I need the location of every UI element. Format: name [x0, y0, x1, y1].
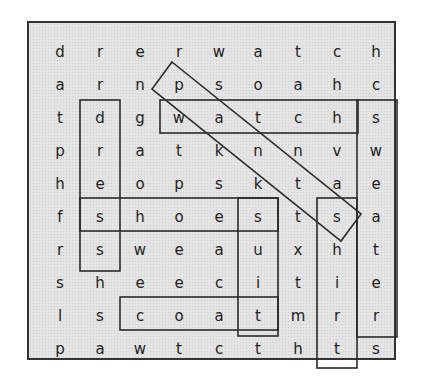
- grid-cell[interactable]: s: [80, 201, 120, 234]
- grid-cell[interactable]: o: [159, 201, 199, 234]
- grid-cell[interactable]: s: [238, 201, 278, 234]
- grid-cell[interactable]: o: [120, 168, 160, 201]
- grid-cell[interactable]: a: [238, 36, 278, 69]
- grid-cell[interactable]: v: [317, 135, 357, 168]
- grid-cell[interactable]: t: [317, 333, 357, 366]
- grid-cell[interactable]: i: [317, 267, 357, 300]
- grid-cell[interactable]: k: [238, 168, 278, 201]
- grid-cell[interactable]: s: [317, 201, 357, 234]
- grid-cell[interactable]: c: [278, 102, 318, 135]
- grid-cell[interactable]: g: [120, 102, 160, 135]
- grid-cell[interactable]: h: [40, 168, 80, 201]
- grid-cell[interactable]: w: [159, 102, 199, 135]
- grid-cell[interactable]: p: [159, 168, 199, 201]
- grid-cell[interactable]: i: [238, 267, 278, 300]
- grid-cell[interactable]: t: [238, 300, 278, 333]
- grid-cell[interactable]: s: [199, 168, 239, 201]
- grid-cell[interactable]: a: [199, 102, 239, 135]
- grid-cell[interactable]: a: [278, 69, 318, 102]
- grid-cell[interactable]: a: [356, 201, 396, 234]
- grid-cell[interactable]: e: [159, 267, 199, 300]
- grid-cell[interactable]: p: [40, 333, 80, 366]
- grid-cell[interactable]: t: [238, 102, 278, 135]
- grid-cell[interactable]: a: [80, 333, 120, 366]
- grid-cell[interactable]: h: [317, 234, 357, 267]
- grid-cell[interactable]: s: [199, 69, 239, 102]
- grid-cell[interactable]: s: [80, 234, 120, 267]
- grid-cell[interactable]: p: [40, 135, 80, 168]
- grid-cell[interactable]: h: [278, 333, 318, 366]
- grid-cell[interactable]: k: [199, 135, 239, 168]
- grid-cell[interactable]: t: [238, 333, 278, 366]
- grid-cell[interactable]: h: [120, 201, 160, 234]
- grid-cell[interactable]: r: [356, 300, 396, 333]
- grid-cell[interactable]: a: [199, 234, 239, 267]
- grid-cell[interactable]: s: [40, 267, 80, 300]
- grid-cell[interactable]: t: [356, 234, 396, 267]
- grid-cell[interactable]: o: [238, 69, 278, 102]
- grid-cell[interactable]: m: [278, 300, 318, 333]
- grid-cell[interactable]: c: [120, 300, 160, 333]
- grid-cell[interactable]: h: [317, 102, 357, 135]
- grid-cell[interactable]: w: [356, 135, 396, 168]
- grid-cell[interactable]: t: [278, 201, 318, 234]
- grid-cell[interactable]: t: [159, 135, 199, 168]
- grid-cell[interactable]: s: [356, 102, 396, 135]
- grid-cell[interactable]: a: [317, 168, 357, 201]
- grid-cell[interactable]: r: [80, 36, 120, 69]
- grid-cell[interactable]: f: [40, 201, 80, 234]
- grid-cell[interactable]: c: [356, 69, 396, 102]
- word-search-board: drerwatcharnpsoahctdgwatchspratknnvwheop…: [27, 21, 396, 360]
- grid-cell[interactable]: x: [278, 234, 318, 267]
- grid-cell[interactable]: e: [120, 267, 160, 300]
- grid-cell[interactable]: h: [317, 69, 357, 102]
- grid-cell[interactable]: c: [317, 36, 357, 69]
- grid-cell[interactable]: e: [199, 201, 239, 234]
- grid-cell[interactable]: s: [80, 300, 120, 333]
- grid-cell[interactable]: c: [199, 333, 239, 366]
- grid-cell[interactable]: r: [159, 36, 199, 69]
- grid-cell[interactable]: t: [278, 168, 318, 201]
- grid-cell[interactable]: t: [278, 267, 318, 300]
- grid-cell[interactable]: e: [356, 168, 396, 201]
- grid-cell[interactable]: e: [356, 267, 396, 300]
- grid-cell[interactable]: c: [199, 267, 239, 300]
- grid-cell[interactable]: r: [40, 234, 80, 267]
- grid-cell[interactable]: n: [238, 135, 278, 168]
- grid-cell[interactable]: l: [40, 300, 80, 333]
- grid-cell[interactable]: h: [356, 36, 396, 69]
- grid-cell[interactable]: d: [40, 36, 80, 69]
- grid-cell[interactable]: u: [238, 234, 278, 267]
- grid-cell[interactable]: r: [317, 300, 357, 333]
- grid-cell[interactable]: a: [199, 300, 239, 333]
- grid-cell[interactable]: n: [120, 69, 160, 102]
- grid-cell[interactable]: s: [356, 333, 396, 366]
- grid-cell[interactable]: r: [80, 135, 120, 168]
- grid-cell[interactable]: w: [199, 36, 239, 69]
- grid-cell[interactable]: w: [120, 234, 160, 267]
- grid-cell[interactable]: a: [40, 69, 80, 102]
- grid-cell[interactable]: r: [80, 69, 120, 102]
- grid-cell[interactable]: t: [40, 102, 80, 135]
- grid-cell[interactable]: o: [159, 300, 199, 333]
- grid-cell[interactable]: e: [80, 168, 120, 201]
- grid-cell[interactable]: t: [278, 36, 318, 69]
- grid-cell[interactable]: e: [159, 234, 199, 267]
- grid-cell[interactable]: e: [120, 36, 160, 69]
- grid-cell[interactable]: a: [120, 135, 160, 168]
- grid-cell[interactable]: n: [278, 135, 318, 168]
- grid-cell[interactable]: h: [80, 267, 120, 300]
- grid-cell[interactable]: t: [159, 333, 199, 366]
- grid-cell[interactable]: p: [159, 69, 199, 102]
- grid-cell[interactable]: d: [80, 102, 120, 135]
- grid-cell[interactable]: w: [120, 333, 160, 366]
